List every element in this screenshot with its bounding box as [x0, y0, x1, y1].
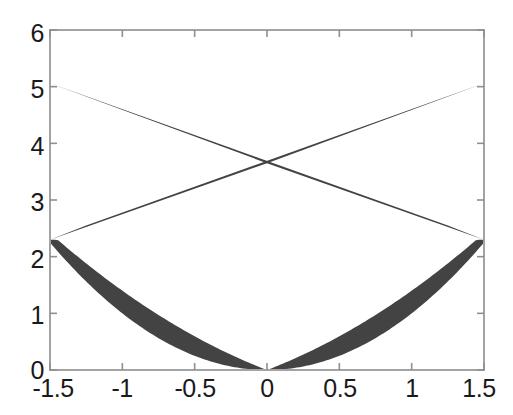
xtick-label-0: 0 [260, 376, 273, 401]
xtick-label-neg1: -1 [111, 376, 132, 401]
plot-canvas [0, 0, 513, 415]
xtick-label-neg1-5: -1.5 [32, 376, 73, 401]
ytick-label-3: 3 [31, 190, 44, 215]
xtick-label-1-5: 1.5 [462, 376, 495, 401]
ytick-label-4: 4 [31, 134, 44, 159]
chart-figure: 6 5 4 3 2 1 0 -1.5 -1 -0.5 0 0.5 1 1.5 [0, 0, 513, 415]
ytick-label-5: 5 [31, 77, 44, 102]
ytick-label-2: 2 [31, 247, 44, 272]
plot-background [50, 30, 484, 370]
ytick-label-6: 6 [31, 21, 44, 46]
xtick-label-1: 1 [405, 376, 418, 401]
xtick-label-neg0-5: -0.5 [174, 376, 215, 401]
ytick-label-1: 1 [31, 303, 44, 328]
xtick-label-0-5: 0.5 [323, 376, 356, 401]
